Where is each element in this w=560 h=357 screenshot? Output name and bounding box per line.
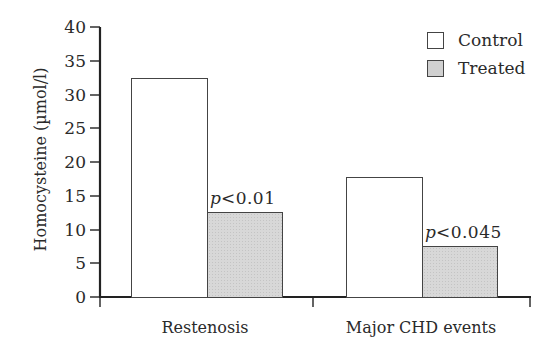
legend-item-treated: Treated <box>427 58 525 78</box>
legend-swatch-control <box>427 32 444 49</box>
p-symbol: p <box>210 188 221 208</box>
y-tick-label: 25 <box>56 120 86 137</box>
p-value: <0.01 <box>221 188 276 208</box>
x-category-label: Major CHD events <box>326 318 516 337</box>
legend-label: Control <box>458 30 523 50</box>
y-tick-label: 10 <box>56 222 86 239</box>
chart: Homocysteine (µmol/l) 40 35 30 25 20 15 … <box>0 0 560 357</box>
y-tick-label: 5 <box>56 255 86 272</box>
legend-label: Treated <box>458 58 525 78</box>
y-tick-label: 15 <box>56 188 86 205</box>
p-value: <0.045 <box>436 222 502 242</box>
p-value-annotation-chd: p<0.045 <box>425 222 502 242</box>
p-symbol: p <box>425 222 436 242</box>
y-tick-label: 35 <box>56 53 86 70</box>
bar-chd-treated <box>422 246 498 298</box>
y-tick-label: 20 <box>56 154 86 171</box>
x-category-label: Restenosis <box>130 318 280 337</box>
y-tick-label: 0 <box>56 289 86 306</box>
bar-restenosis-treated <box>207 212 283 298</box>
legend-swatch-treated <box>427 60 444 77</box>
legend-item-control: Control <box>427 30 523 50</box>
p-value-annotation-restenosis: p<0.01 <box>210 188 276 208</box>
y-tick-label: 30 <box>56 87 86 104</box>
bar-restenosis-control <box>131 78 208 298</box>
bar-chd-control <box>346 177 423 298</box>
y-tick-label: 40 <box>56 19 86 36</box>
